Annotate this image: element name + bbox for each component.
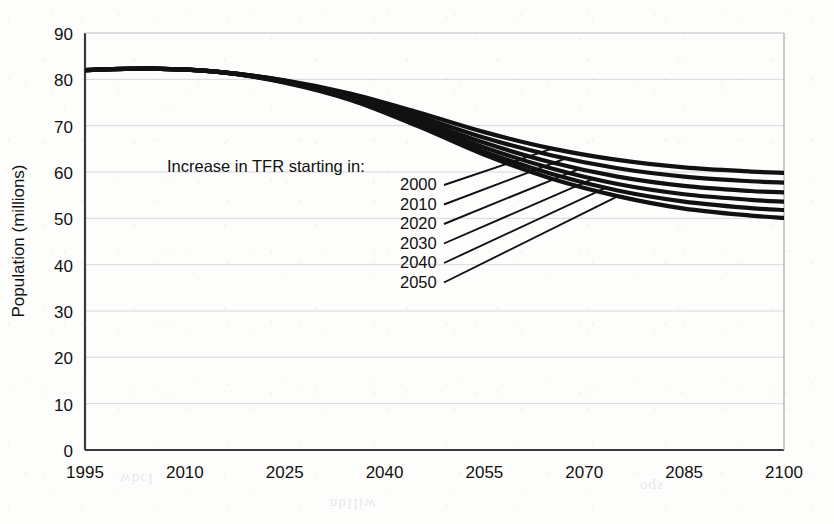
series-labels: 200020102020203020402050 [400,175,437,291]
y-tick-label: 0 [64,442,73,461]
series-label-2000: 2000 [400,175,437,193]
y-tick-label: 70 [54,118,73,137]
series-label-2040: 2040 [400,253,437,271]
y-tick-label: 10 [54,396,73,415]
series-label-2030: 2030 [400,234,437,252]
y-axis-tick-labels: 0102030405060708090 [54,25,73,461]
x-tick-label: 1995 [66,463,104,482]
leader-line-2030 [444,178,594,243]
series-label-2010: 2010 [400,195,437,213]
x-tick-label: 2010 [166,463,204,482]
y-tick-label: 40 [54,257,73,276]
x-tick-label: 2025 [266,463,304,482]
series-label-2050: 2050 [400,273,437,291]
x-tick-label: 2055 [466,463,504,482]
y-tick-label: 30 [54,303,73,322]
x-tick-label: 2085 [665,463,703,482]
y-tick-label: 90 [54,25,73,44]
y-tick-label: 60 [54,164,73,183]
leader-line-2050 [444,196,618,282]
population-projection-chart: 0102030405060708090 19952010202520402055… [0,0,834,524]
x-tick-label: 2070 [565,463,603,482]
y-axis-title: Population (millions) [9,164,28,317]
annotation-title: Increase in TFR starting in: [167,157,365,175]
y-tick-label: 80 [54,71,73,90]
chart-container: 0102030405060708090 19952010202520402055… [0,0,834,524]
y-tick-label: 20 [54,349,73,368]
x-tick-label: 2100 [765,463,803,482]
x-tick-label: 2040 [366,463,404,482]
series-label-2020: 2020 [400,214,437,232]
leader-line-2040 [444,188,606,263]
x-axis-tick-labels: 19952010202520402055207020852100 [66,463,803,482]
y-tick-label: 50 [54,210,73,229]
